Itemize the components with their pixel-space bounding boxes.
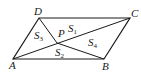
vertex-label-d: D <box>33 5 42 17</box>
region-label-s4: S4 <box>88 36 98 50</box>
vertex-label-b: B <box>102 60 109 72</box>
vertex-label-a: A <box>8 59 16 71</box>
point-label-p: P <box>57 27 65 39</box>
region-label-s2: S2 <box>55 46 65 60</box>
parallelogram-diagram: D C A B P S1 S2 S3 S4 <box>0 0 141 74</box>
region-label-s1: S1 <box>68 22 78 36</box>
region-label-s3: S3 <box>34 29 44 43</box>
vertex-label-c: C <box>131 7 139 19</box>
